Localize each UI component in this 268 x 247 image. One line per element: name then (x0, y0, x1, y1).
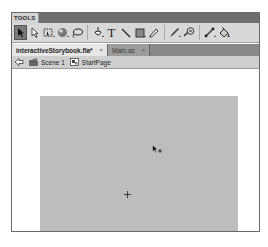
lasso-tool-button[interactable] (70, 25, 83, 40)
tools-toolbar: ▪ ▪ ▪ T ▪ ▪ (12, 23, 259, 43)
edit-bar-breadcrumb: Scene 1 StartPage (12, 56, 259, 69)
scene-clapper-icon (29, 58, 38, 66)
submenu-indicator: ▪ (179, 33, 181, 39)
tab-main-as[interactable]: Main.as × (108, 44, 150, 56)
close-tab-icon[interactable]: × (142, 47, 146, 53)
submenu-indicator: ▪ (214, 33, 216, 39)
toolbar-separator (199, 25, 200, 40)
selection-tool-button[interactable] (14, 25, 27, 40)
pencil-tool-button[interactable] (147, 25, 160, 40)
movieclip-symbol-icon (70, 58, 79, 66)
document-tab-bar: interactiveStorybook.fla* × Main.as × (12, 44, 259, 56)
pasteboard[interactable] (12, 70, 259, 232)
line-icon (121, 28, 131, 38)
deco-tool-button[interactable] (182, 25, 195, 40)
tab-label: interactiveStorybook.fla* (16, 47, 93, 54)
toolbar-separator (164, 25, 165, 40)
tools-panel-header[interactable]: TOOLS (12, 13, 259, 23)
close-tab-icon[interactable]: × (100, 47, 104, 53)
tab-label: Main.as (112, 47, 135, 54)
rectangle-tool-button[interactable]: ▪ (133, 25, 146, 40)
submenu-indicator: ▪ (67, 33, 69, 39)
paint-bucket-tool-button[interactable]: ▪ (217, 25, 230, 40)
toolbar-separator (87, 25, 88, 40)
rectangle-icon (135, 28, 145, 38)
breadcrumb-scene-1[interactable]: Scene 1 (29, 58, 65, 66)
pen-nib-icon (94, 27, 102, 38)
submenu-indicator: ▪ (53, 33, 55, 39)
selection-move-cursor-icon (152, 145, 162, 155)
submenu-indicator: ▪ (228, 33, 230, 39)
bone-tool-button[interactable]: ▪ (203, 25, 216, 40)
selection-arrow-icon (17, 28, 25, 38)
subselection-tool-button[interactable] (28, 25, 41, 40)
text-t-icon: T (108, 25, 116, 41)
pen-tool-button[interactable]: ▪ (91, 25, 104, 40)
stage[interactable] (40, 96, 238, 231)
tools-panel-title: TOOLS (12, 13, 39, 23)
registration-point-icon (124, 191, 131, 198)
breadcrumb-label: Scene 1 (41, 59, 65, 66)
breadcrumb-label: StartPage (82, 59, 111, 66)
submenu-indicator: ▪ (102, 33, 104, 39)
brush-tool-button[interactable]: ▪ (168, 25, 181, 40)
breadcrumb-startpage[interactable]: StartPage (70, 58, 111, 66)
back-arrow-icon[interactable] (14, 57, 24, 67)
tab-interactive-storybook[interactable]: interactiveStorybook.fla* × (12, 44, 108, 56)
submenu-indicator: ▪ (144, 33, 146, 39)
pencil-icon (148, 27, 159, 38)
free-transform-tool-button[interactable]: ▪ (42, 25, 55, 40)
deco-icon (183, 27, 195, 38)
flash-authoring-window: TOOLS ▪ ▪ ▪ T ▪ (11, 12, 260, 232)
line-tool-button[interactable] (119, 25, 132, 40)
subselection-arrow-icon (31, 28, 39, 38)
3d-rotation-tool-button[interactable]: ▪ (56, 25, 69, 40)
text-tool-button[interactable]: T (105, 25, 118, 40)
lasso-icon (71, 28, 83, 38)
